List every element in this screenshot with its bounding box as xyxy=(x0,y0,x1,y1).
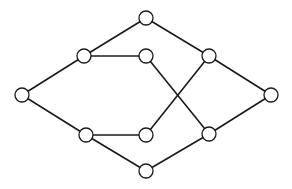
node-J xyxy=(139,164,153,178)
graph-diagram xyxy=(0,0,292,189)
nodes-layer xyxy=(15,11,278,178)
edge-I-F xyxy=(209,95,271,134)
edges-layer xyxy=(22,18,271,171)
node-I xyxy=(202,127,216,141)
edge-A-C xyxy=(22,56,84,95)
node-B xyxy=(139,11,153,25)
edge-A-G xyxy=(22,95,86,135)
edge-E-F xyxy=(209,56,271,95)
node-E xyxy=(202,49,216,63)
edge-B-E xyxy=(146,18,209,56)
node-D xyxy=(139,49,153,63)
edge-C-B xyxy=(84,18,146,56)
node-G xyxy=(79,128,93,142)
node-H xyxy=(139,128,153,142)
node-C xyxy=(77,49,91,63)
edge-G-J xyxy=(86,135,146,171)
node-F xyxy=(264,88,278,102)
edge-J-I xyxy=(146,134,209,171)
node-A xyxy=(15,88,29,102)
